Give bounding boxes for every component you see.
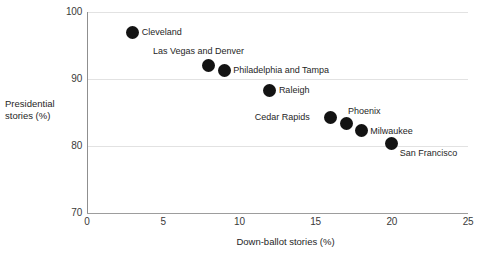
data-point-label: San Francisco: [400, 148, 458, 158]
x-tick-label-5: 5: [148, 216, 178, 227]
x-tick-label-0: 0: [72, 216, 102, 227]
y-tick-label-90: 90: [52, 73, 82, 84]
y-tick-label-80: 80: [52, 140, 82, 151]
data-point-label: Cedar Rapids: [255, 112, 310, 122]
x-axis-line: [87, 213, 468, 214]
gridline-y-100: [87, 12, 468, 13]
x-tick-label-10: 10: [224, 216, 254, 227]
x-axis-title: Down-ballot stories (%): [0, 236, 483, 247]
y-axis-title: Presidentialstories (%): [5, 98, 83, 122]
data-point-marker[interactable]: [218, 64, 231, 77]
data-point-marker[interactable]: [355, 124, 368, 137]
data-point-label: Milwaukee: [370, 126, 413, 136]
data-point-marker[interactable]: [202, 59, 215, 72]
y-axis-title-line-2: stories (%): [5, 110, 83, 122]
gridline-y-80: [87, 146, 468, 147]
data-point-label: Las Vegas and Denver: [153, 46, 244, 56]
data-point-marker[interactable]: [340, 117, 353, 130]
x-tick-label-15: 15: [301, 216, 331, 227]
data-point-marker[interactable]: [126, 26, 139, 39]
data-point-marker[interactable]: [263, 84, 276, 97]
chart-container: 708090100 0510152025 Presidentialstories…: [0, 0, 483, 265]
data-point-label: Phoenix: [348, 106, 381, 116]
data-point-label: Philadelphia and Tampa: [233, 65, 329, 75]
data-point-marker[interactable]: [324, 111, 337, 124]
y-tick-label-100: 100: [52, 6, 82, 17]
data-point-label: Cleveland: [142, 27, 182, 37]
gridline-y-90: [87, 79, 468, 80]
data-point-marker[interactable]: [385, 137, 398, 150]
data-point-label: Raleigh: [279, 85, 310, 95]
y-axis-line: [87, 12, 88, 214]
x-tick-label-20: 20: [377, 216, 407, 227]
x-tick-label-25: 25: [453, 216, 483, 227]
y-axis-title-line-1: Presidential: [5, 98, 83, 110]
